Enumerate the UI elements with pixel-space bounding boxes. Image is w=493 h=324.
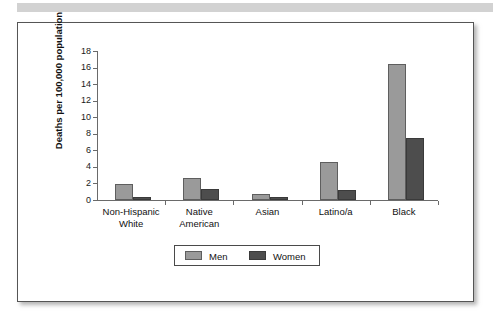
legend-swatch-men xyxy=(185,251,202,260)
y-tick-mark xyxy=(93,134,97,135)
legend-label-men: Men xyxy=(209,251,227,262)
bar-men xyxy=(388,64,406,200)
figure-frame: Deaths per 100,000 population 0246810121… xyxy=(17,22,474,302)
bar-women xyxy=(270,197,288,200)
bar-women xyxy=(133,197,151,200)
x-category-label: Black xyxy=(370,206,438,218)
x-tick-mark xyxy=(233,201,234,205)
x-tick-mark xyxy=(370,201,371,205)
top-decorative-band xyxy=(17,3,493,12)
x-axis-line xyxy=(97,200,438,201)
y-tick-mark xyxy=(93,51,97,52)
page-root: Deaths per 100,000 population 0246810121… xyxy=(0,0,493,324)
y-tick-mark xyxy=(93,117,97,118)
bar-men xyxy=(115,184,133,200)
x-category-label: Latino/a xyxy=(302,206,370,218)
bar-women xyxy=(338,190,356,200)
y-tick-label: 10 xyxy=(69,113,91,122)
y-tick-label: 16 xyxy=(69,63,91,72)
y-tick-mark xyxy=(93,101,97,102)
y-tick-label: 14 xyxy=(69,80,91,89)
x-tick-mark xyxy=(438,201,439,205)
bar-men xyxy=(252,194,270,200)
y-tick-label: 0 xyxy=(69,196,91,205)
y-tick-mark xyxy=(93,183,97,184)
x-category-label: Native American xyxy=(165,206,233,229)
y-axis-line xyxy=(97,51,98,201)
y-tick-label: 18 xyxy=(69,47,91,56)
bar-women xyxy=(201,189,219,200)
y-tick-mark xyxy=(93,167,97,168)
y-tick-label: 6 xyxy=(69,146,91,155)
legend-swatch-women xyxy=(249,251,266,260)
y-tick-label: 2 xyxy=(69,179,91,188)
x-tick-mark xyxy=(302,201,303,205)
bar-women xyxy=(406,138,424,200)
y-tick-label: 8 xyxy=(69,129,91,138)
x-category-label: Non-Hispanic White xyxy=(97,206,165,229)
y-tick-label: 12 xyxy=(69,96,91,105)
y-axis-label: Deaths per 100,000 population xyxy=(53,1,64,161)
chart-legend: MenWomen xyxy=(174,245,320,266)
y-tick-mark xyxy=(93,84,97,85)
legend-label-women: Women xyxy=(273,251,306,262)
x-tick-mark xyxy=(165,201,166,205)
y-tick-label: 4 xyxy=(69,162,91,171)
bar-men xyxy=(183,178,201,200)
chart-plot-area: Deaths per 100,000 population 0246810121… xyxy=(18,23,475,303)
y-tick-mark xyxy=(93,200,97,201)
bar-men xyxy=(320,162,338,200)
y-tick-mark xyxy=(93,68,97,69)
y-tick-mark xyxy=(93,150,97,151)
x-category-label: Asian xyxy=(233,206,301,218)
